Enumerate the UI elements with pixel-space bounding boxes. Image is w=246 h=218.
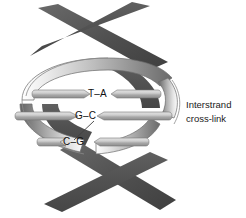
- back-strand: [30, 2, 176, 212]
- rung-bp-1-left: [32, 90, 90, 98]
- rung-bp-2-right: [97, 112, 172, 120]
- dna-helix-figure: T–A G–C C–G Interstrand cross-link: [0, 0, 246, 218]
- base-pair-label-3: C–G: [63, 137, 84, 147]
- base-pair-label-2: G–C: [75, 111, 96, 121]
- rung-bp-1-right: [111, 90, 161, 98]
- rung-bp-3-right: [94, 138, 149, 146]
- annotation-line-1: Interstrand: [186, 98, 246, 112]
- rung-bp-2-left: [15, 112, 78, 120]
- front-ribbon-lower: [96, 118, 160, 154]
- base-pair-label-1: T–A: [88, 89, 107, 99]
- annotation-line-2: cross-link: [186, 112, 246, 126]
- interstrand-crosslink-annotation: Interstrand cross-link: [186, 98, 246, 125]
